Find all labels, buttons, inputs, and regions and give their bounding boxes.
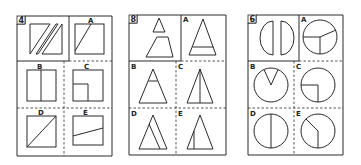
svg-text:E: E — [178, 110, 183, 118]
question-shape — [146, 18, 173, 57]
option-A[interactable]: A — [301, 16, 337, 54]
option-E[interactable]: E — [73, 109, 103, 145]
svg-text:B: B — [250, 63, 255, 71]
card-border — [129, 15, 226, 155]
option-B[interactable]: B — [131, 63, 167, 103]
option-A[interactable]: A — [183, 16, 216, 55]
option-E[interactable]: E — [178, 110, 213, 149]
puzzle-card-4: 4 A B C D — [17, 16, 112, 156]
option-B[interactable]: B — [27, 63, 56, 101]
option-B[interactable]: B — [250, 63, 288, 102]
puzzle-card-6: 6 A B C D E — [248, 15, 343, 155]
puzzle-number: 6 — [250, 15, 256, 24]
question-shape — [30, 24, 62, 54]
puzzle-number: 4 — [19, 16, 25, 25]
puzzle-card-8: 8 A B C D E — [129, 15, 226, 155]
option-D[interactable]: D — [27, 109, 56, 147]
svg-text:D: D — [250, 110, 256, 118]
puzzle-number: 8 — [131, 15, 137, 24]
svg-text:C: C — [296, 63, 301, 71]
puzzle-sheet: 4 A B C D — [0, 0, 361, 165]
option-E[interactable]: E — [296, 110, 335, 148]
card-border — [248, 15, 343, 155]
svg-text:A: A — [183, 16, 189, 24]
svg-text:D: D — [131, 110, 137, 118]
option-A[interactable]: A — [75, 17, 104, 54]
option-C[interactable]: C — [296, 63, 335, 102]
option-D[interactable]: D — [131, 110, 167, 149]
card-border — [17, 16, 112, 156]
svg-text:A: A — [301, 16, 307, 24]
option-C[interactable]: C — [73, 63, 103, 101]
svg-text:B: B — [131, 63, 136, 71]
svg-text:C: C — [178, 63, 183, 71]
option-C[interactable]: C — [178, 63, 213, 103]
svg-text:E: E — [296, 110, 301, 118]
option-D[interactable]: D — [250, 110, 288, 148]
question-shape — [260, 21, 294, 55]
